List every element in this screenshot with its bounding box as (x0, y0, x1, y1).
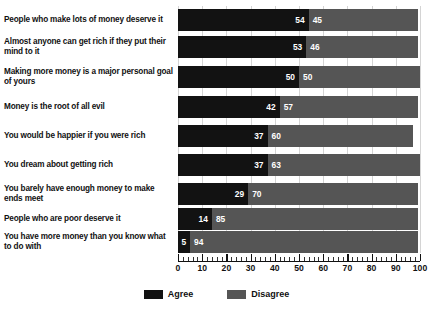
bar-track: 5346 (178, 36, 420, 58)
axis-tick-minor (183, 257, 184, 261)
axis-tick-minor (246, 257, 247, 261)
bar-value-agree: 37 (254, 161, 267, 169)
legend-label: Disagree (251, 290, 289, 299)
category-label: People who make lots of money deserve it (4, 15, 174, 26)
axis-tick-label: 40 (270, 263, 280, 273)
category-label: You barely have enough money to make end… (4, 184, 174, 205)
axis-tick-label: 20 (222, 263, 232, 273)
axis-tick-minor (333, 257, 334, 261)
bar-segment-agree: 42 (178, 96, 280, 118)
axis-tick-label: 0 (176, 263, 181, 273)
axis-tick-label: 90 (391, 263, 401, 273)
bar-value-disagree: 46 (306, 43, 319, 51)
axis-tick-minor (314, 257, 315, 261)
bar-segment-agree: 50 (178, 66, 299, 88)
bar-track: 4257 (178, 96, 420, 118)
axis-tick-minor (381, 257, 382, 261)
category-label: Money is the root of all evil (4, 102, 174, 113)
axis-tick-minor (284, 257, 285, 261)
axis-tick-major (396, 254, 397, 261)
bar-value-agree: 53 (293, 43, 306, 51)
axis-tick-minor (231, 257, 232, 261)
axis-tick-minor (328, 257, 329, 261)
axis-tick-minor (391, 257, 392, 261)
chart-row: Almost anyone can get rich if they put t… (0, 36, 433, 58)
category-label: People who are poor deserve it (4, 214, 174, 225)
axis-tick-minor (289, 257, 290, 261)
bar-track: 5445 (178, 9, 420, 31)
chart-rows: People who make lots of money deserve it… (0, 6, 433, 253)
axis-tick-minor (265, 257, 266, 261)
bar-segment-disagree: 63 (268, 154, 420, 176)
axis-tick-label: 50 (294, 263, 304, 273)
chart-row: Making more money is a major personal go… (0, 66, 433, 88)
bar-segment-disagree: 50 (299, 66, 420, 88)
category-label: You have more money than you know what t… (4, 232, 174, 253)
chart-row: Money is the root of all evil4257 (0, 96, 433, 118)
bar-value-disagree: 57 (280, 103, 293, 111)
axis-tick-minor (357, 257, 358, 261)
bar-value-agree: 54 (295, 16, 308, 24)
bar-value-agree: 5 (181, 238, 190, 246)
axis-tick-label: 60 (318, 263, 328, 273)
category-label: You dream about getting rich (4, 160, 174, 171)
bar-segment-disagree: 45 (309, 9, 418, 31)
legend-swatch-icon (144, 290, 163, 299)
axis-tick-minor (386, 257, 387, 261)
chart-row: You would be happier if you were rich376… (0, 125, 433, 147)
bar-segment-agree: 53 (178, 36, 306, 58)
axis-tick-major (178, 254, 179, 261)
axis-tick-minor (294, 257, 295, 261)
bar-value-disagree: 60 (268, 132, 281, 140)
axis-tick-label: 100 (413, 263, 427, 273)
bar-track: 3760 (178, 125, 420, 147)
legend-item[interactable]: Agree (144, 290, 194, 299)
bar-segment-agree: 5 (178, 231, 190, 253)
axis-tick-minor (343, 257, 344, 261)
axis-tick-minor (318, 257, 319, 261)
bar-track: 594 (178, 231, 420, 253)
bar-value-disagree: 85 (212, 215, 225, 223)
axis-tick-major (372, 254, 373, 261)
axis-tick-major (323, 254, 324, 261)
bar-value-agree: 14 (199, 215, 212, 223)
bar-value-disagree: 94 (190, 238, 203, 246)
axis-tick-major (347, 254, 348, 261)
axis-tick-minor (304, 257, 305, 261)
axis-tick-minor (352, 257, 353, 261)
bar-value-disagree: 70 (248, 190, 261, 198)
legend-swatch-icon (227, 290, 246, 299)
bar-segment-agree: 37 (178, 154, 268, 176)
bar-segment-disagree: 57 (280, 96, 418, 118)
axis-tick-minor (207, 257, 208, 261)
bar-value-disagree: 63 (268, 161, 281, 169)
x-axis (178, 253, 420, 262)
axis-tick-label: 70 (343, 263, 353, 273)
axis-tick-minor (401, 257, 402, 261)
bar-value-agree: 37 (254, 132, 267, 140)
bar-segment-disagree: 46 (306, 36, 417, 58)
axis-tick-major (226, 254, 227, 261)
bar-value-disagree: 50 (299, 73, 312, 81)
chart-row: You have more money than you know what t… (0, 231, 433, 253)
axis-tick-minor (217, 257, 218, 261)
axis-tick-minor (309, 257, 310, 261)
bar-track: 1485 (178, 208, 420, 230)
bar-value-disagree: 45 (309, 16, 322, 24)
axis-tick-major (251, 254, 252, 261)
category-label: Almost anyone can get rich if they put t… (4, 37, 174, 58)
axis-tick-minor (376, 257, 377, 261)
axis-tick-label: 80 (367, 263, 377, 273)
bar-segment-agree: 14 (178, 208, 212, 230)
axis-tick-label: 10 (197, 263, 207, 273)
chart-legend: AgreeDisagree (0, 290, 433, 299)
axis-tick-minor (222, 257, 223, 261)
stacked-bar-chart: People who make lots of money deserve it… (0, 0, 433, 316)
category-label: Making more money is a major personal go… (4, 67, 174, 88)
bar-segment-agree: 54 (178, 9, 309, 31)
axis-tick-minor (338, 257, 339, 261)
legend-item[interactable]: Disagree (227, 290, 289, 299)
axis-tick-minor (212, 257, 213, 261)
legend-label: Agree (168, 290, 194, 299)
chart-row: People who make lots of money deserve it… (0, 9, 433, 31)
